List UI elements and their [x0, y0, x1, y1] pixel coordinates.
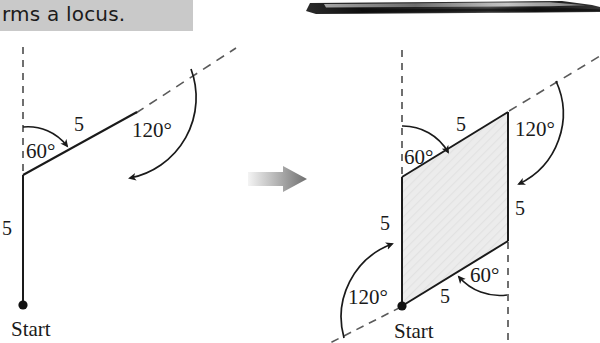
- diagonal-extension-dashed-icon: [136, 48, 236, 113]
- geometry-canvas: 60° 5 120° 5 Start: [0, 0, 600, 343]
- angle-label-120-bottom-left: 120°: [348, 285, 388, 309]
- start-label-left: Start: [11, 317, 51, 341]
- length-label-5-right-side: 5: [515, 197, 525, 219]
- transition-arrow: [248, 166, 307, 192]
- figure-page: rms a locus.: [0, 0, 600, 343]
- angle-label-60-bottom-right: 60°: [470, 263, 499, 287]
- diagonal-extension-dashed-top-icon: [509, 56, 600, 111]
- length-label-5-left-side: 5: [2, 217, 12, 239]
- length-label-5-left-side-right: 5: [380, 212, 390, 234]
- angle-label-60-left: 60°: [26, 139, 55, 163]
- angle-label-60-top-left: 60°: [404, 145, 433, 169]
- length-label-5-top-left: 5: [74, 113, 84, 135]
- length-label-5-bottom: 5: [440, 285, 450, 307]
- diagram-left: 60° 5 120° 5 Start: [2, 47, 236, 341]
- length-label-5-top-right: 5: [456, 113, 466, 135]
- diagram-right: 60° 5 120° 5 5 120° 5 60° Start: [330, 50, 600, 343]
- start-label-right: Start: [394, 319, 434, 343]
- angle-label-120-top-right: 120°: [515, 117, 555, 141]
- start-dot: [18, 300, 27, 309]
- right-arrow-gradient-icon: [248, 166, 307, 192]
- start-dot-right: [397, 301, 406, 310]
- angle-label-120-left: 120°: [132, 118, 172, 142]
